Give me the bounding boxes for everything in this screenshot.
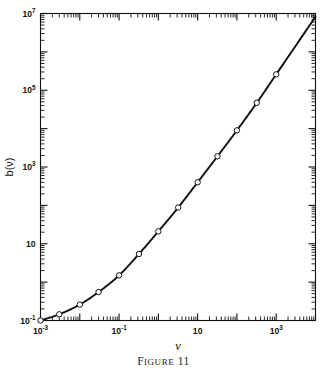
axis-ticks: [41, 14, 316, 321]
data-point: [234, 128, 239, 133]
tick-label: 103: [22, 160, 36, 172]
tick-label: 105: [22, 84, 36, 96]
plot-frame: [41, 14, 316, 321]
figure-container: 10-310-11010310-110103105107 νb(ν) FIGUR…: [0, 0, 327, 377]
x-axis-title: ν: [175, 339, 181, 353]
caption-number: 11: [174, 355, 189, 367]
figure-caption: FIGURE 11: [0, 355, 327, 367]
data-point: [96, 289, 101, 294]
log-log-plot: 10-310-11010310-110103105107 νb(ν): [0, 0, 327, 377]
data-point: [254, 100, 259, 105]
tick-label: 10: [26, 239, 36, 249]
caption-first-letter: F: [137, 355, 144, 367]
data-point: [274, 72, 279, 77]
tick-label: 10-1: [20, 314, 36, 326]
data-point: [57, 312, 62, 317]
tick-label: 10: [193, 326, 203, 336]
data-point: [195, 180, 200, 185]
data-point: [38, 318, 43, 323]
caption-word-rest: IGURE: [144, 357, 175, 367]
tick-label: 10-3: [33, 324, 49, 336]
tick-label: 10-1: [111, 324, 127, 336]
data-point: [156, 229, 161, 234]
y-axis-title: b(ν): [3, 158, 15, 177]
data-point: [77, 302, 82, 307]
data-point: [116, 273, 121, 278]
data-curve: [41, 17, 316, 321]
data-point: [215, 154, 220, 159]
data-point: [136, 251, 141, 256]
tick-label: 107: [22, 7, 36, 19]
tick-label: 103: [270, 324, 284, 336]
axis-tick-labels: 10-310-11010310-110103105107: [20, 7, 283, 336]
data-markers: [38, 72, 279, 324]
data-point: [176, 205, 181, 210]
